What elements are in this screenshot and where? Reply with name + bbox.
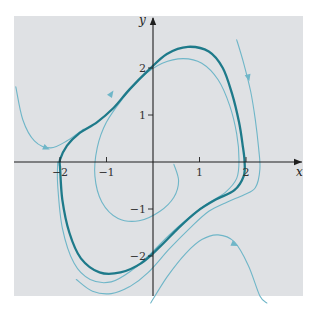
y-tick-label: −1 [130, 203, 146, 216]
y-tick-label: 1 [139, 109, 146, 122]
x-tick-label: −1 [98, 166, 114, 179]
phase-portrait-figure: x y −2−11221−1−2 [0, 0, 317, 309]
x-tick-label: 2 [243, 166, 250, 179]
x-axis-label: x [296, 165, 303, 179]
y-tick-label: 2 [139, 62, 146, 75]
x-tick-label: 1 [196, 166, 203, 179]
x-tick-label: −2 [52, 166, 68, 179]
y-tick-label: −2 [130, 250, 146, 263]
y-axis-label: y [138, 13, 146, 27]
